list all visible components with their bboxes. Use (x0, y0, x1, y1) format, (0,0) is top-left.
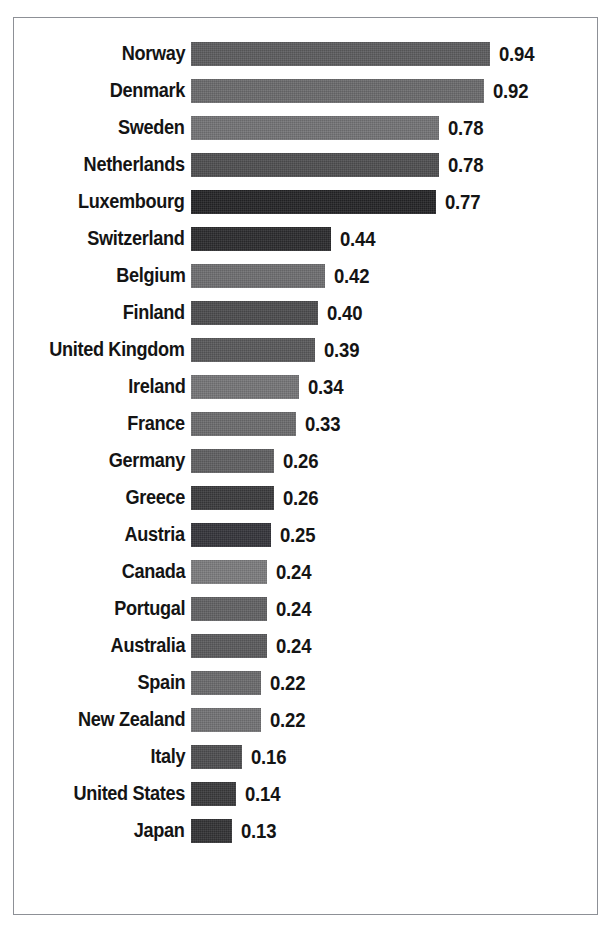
bar-value-label: 0.13 (241, 819, 276, 843)
bar-row: Netherlands0.78 (14, 149, 599, 186)
bar-row: Belgium0.42 (14, 260, 599, 297)
bar-value-label: 0.26 (283, 449, 318, 473)
bar-value-label: 0.92 (493, 79, 528, 103)
bar-category-label: Germany (109, 445, 185, 482)
bar-value-label: 0.94 (499, 42, 534, 66)
bar-row: United Kingdom0.39 (14, 334, 599, 371)
bar-category-label: Austria (125, 519, 185, 556)
bar-value-label: 0.78 (448, 116, 483, 140)
bar-row: Austria0.25 (14, 519, 599, 556)
bar-row: Sweden0.78 (14, 112, 599, 149)
bar-row: Switzerland0.44 (14, 223, 599, 260)
bar-value-label: 0.42 (334, 264, 369, 288)
bar-row: United States0.14 (14, 778, 599, 815)
bar-row: Finland0.40 (14, 297, 599, 334)
bar-row: Germany0.26 (14, 445, 599, 482)
bar-category-label: Denmark (110, 75, 185, 112)
bar-value-label: 0.26 (283, 486, 318, 510)
bar-value-label: 0.34 (308, 375, 343, 399)
bar-category-label: Norway (121, 38, 185, 75)
bar (191, 560, 267, 584)
bar-category-label: New Zealand (78, 704, 185, 741)
bar-value-label: 0.44 (340, 227, 375, 251)
bar-row: Canada0.24 (14, 556, 599, 593)
bar (191, 375, 299, 399)
bar (191, 153, 439, 177)
bar-chart-plot-area: Norway0.94Denmark0.92Sweden0.78Netherlan… (14, 38, 599, 888)
bar (191, 782, 236, 806)
bar-row: Spain0.22 (14, 667, 599, 704)
bar (191, 597, 267, 621)
bar-row: Italy0.16 (14, 741, 599, 778)
bar-row: Portugal0.24 (14, 593, 599, 630)
bar-category-label: Sweden (118, 112, 185, 149)
bar-category-label: Australia (110, 630, 185, 667)
bar (191, 671, 261, 695)
bar (191, 745, 242, 769)
bar-row: Japan0.13 (14, 815, 599, 852)
bar-row: New Zealand0.22 (14, 704, 599, 741)
bar-category-label: Portugal (114, 593, 185, 630)
bar-category-label: Italy (150, 741, 185, 778)
bar-category-label: Japan (134, 815, 185, 852)
bar-row: Norway0.94 (14, 38, 599, 75)
bar-category-label: Belgium (116, 260, 185, 297)
bar-category-label: France (127, 408, 185, 445)
bar (191, 190, 436, 214)
bar (191, 79, 484, 103)
bar-category-label: United States (73, 778, 185, 815)
bar-category-label: Spain (137, 667, 185, 704)
bar (191, 523, 271, 547)
bar-value-label: 0.24 (276, 634, 311, 658)
bar-category-label: Finland (123, 297, 185, 334)
bar-row: Luxembourg0.77 (14, 186, 599, 223)
bar-value-label: 0.14 (245, 782, 280, 806)
bar-row: Greece0.26 (14, 482, 599, 519)
bar-row: France0.33 (14, 408, 599, 445)
bar-category-label: Luxembourg (78, 186, 185, 223)
bar (191, 412, 296, 436)
bar (191, 227, 331, 251)
bar (191, 449, 274, 473)
bar-value-label: 0.39 (324, 338, 359, 362)
bar-category-label: Greece (125, 482, 185, 519)
bar (191, 301, 318, 325)
bar-value-label: 0.40 (327, 301, 362, 325)
bar-row: Denmark0.92 (14, 75, 599, 112)
bar (191, 486, 274, 510)
bar-value-label: 0.24 (276, 560, 311, 584)
bar (191, 819, 232, 843)
bar (191, 264, 325, 288)
bar-value-label: 0.25 (280, 523, 315, 547)
bar-row: Australia0.24 (14, 630, 599, 667)
bar-value-label: 0.77 (445, 190, 480, 214)
bar (191, 42, 490, 66)
bar-value-label: 0.78 (448, 153, 483, 177)
bar-row: Ireland0.34 (14, 371, 599, 408)
bar-category-label: Switzerland (88, 223, 185, 260)
bar-value-label: 0.24 (276, 597, 311, 621)
bar (191, 708, 261, 732)
bar-value-label: 0.33 (305, 412, 340, 436)
bar-category-label: United Kingdom (50, 334, 185, 371)
chart-figure: Norway0.94Denmark0.92Sweden0.78Netherlan… (13, 17, 598, 915)
bar (191, 338, 315, 362)
bar-category-label: Ireland (128, 371, 185, 408)
bar (191, 116, 439, 140)
bar-category-label: Netherlands (84, 149, 185, 186)
bar-value-label: 0.16 (251, 745, 286, 769)
bar-value-label: 0.22 (270, 708, 305, 732)
bar (191, 634, 267, 658)
bar-value-label: 0.22 (270, 671, 305, 695)
bar-category-label: Canada (121, 556, 185, 593)
